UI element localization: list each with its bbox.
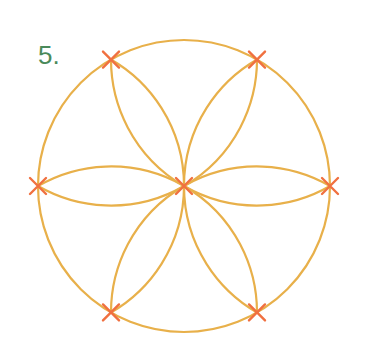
petal-arc <box>38 60 257 206</box>
petal-arc <box>111 60 184 313</box>
petal-arc <box>111 166 330 312</box>
petal-arc <box>111 60 330 206</box>
hexafoil-rosette-diagram <box>0 0 365 348</box>
petal-arc <box>38 166 257 312</box>
petal-arc <box>184 60 257 313</box>
